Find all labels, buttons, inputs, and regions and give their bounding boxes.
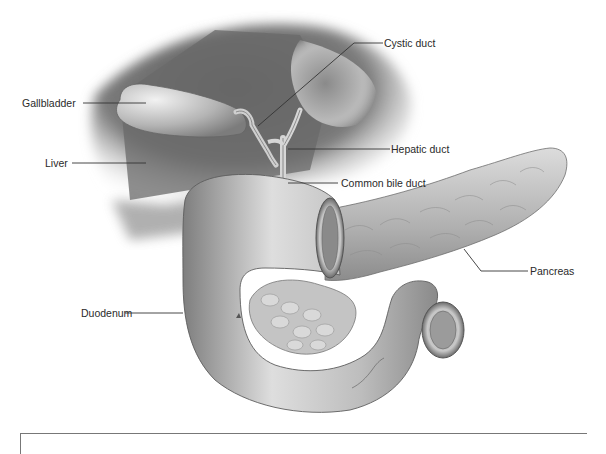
label-liver: Liver — [45, 157, 68, 169]
caption-frame — [20, 433, 587, 454]
label-hepatic-duct: Hepatic duct — [391, 143, 449, 155]
label-cystic-duct: Cystic duct — [384, 37, 435, 49]
leader-pancreas — [464, 249, 528, 271]
label-duodenum: Duodenum — [81, 307, 132, 319]
label-pancreas: Pancreas — [530, 265, 574, 277]
label-common-bile-duct: Common bile duct — [341, 177, 426, 189]
label-gallbladder: Gallbladder — [22, 97, 76, 109]
